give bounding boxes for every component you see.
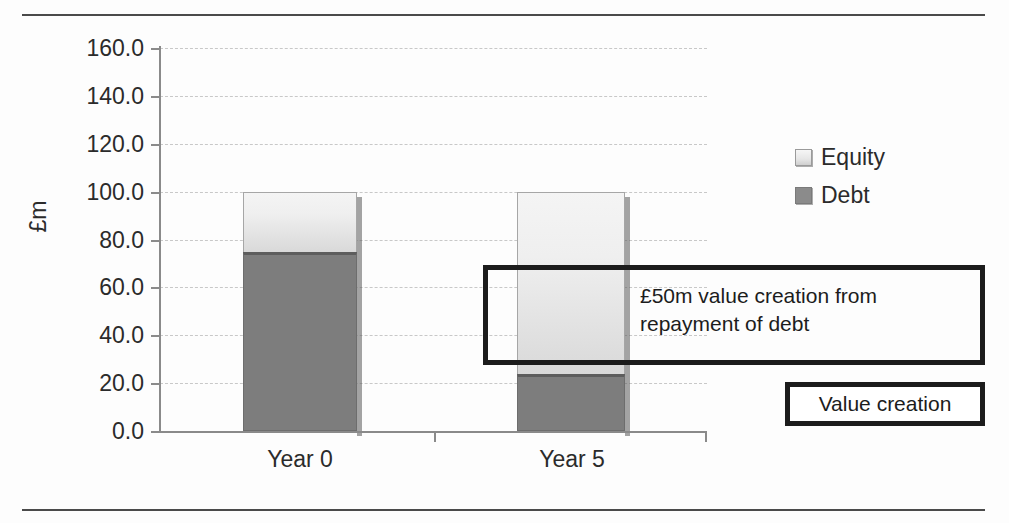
value-creation-callout-box: £50m value creation from repayment of de… (483, 265, 985, 365)
legend-item-equity[interactable]: Equity (795, 138, 885, 176)
ytick-label-20: 20.0 (99, 370, 144, 397)
legend-label-debt: Debt (821, 184, 870, 207)
debt-swatch-icon (795, 187, 812, 204)
ytick-label-0: 0.0 (112, 418, 144, 445)
ytick-label-100: 100.0 (86, 178, 144, 205)
xtick-label-year-5: Year 5 (512, 446, 632, 473)
equity-swatch-icon (795, 149, 812, 166)
value-creation-key-box: Value creation (785, 382, 985, 426)
legend-item-debt[interactable]: Debt (795, 176, 885, 214)
value-creation-key-label: Value creation (819, 392, 952, 416)
xtick-label-year-0: Year 0 (240, 446, 360, 473)
ytick-label-160: 160.0 (86, 35, 144, 62)
xtick-end (705, 431, 707, 442)
y-axis-title: £m (25, 197, 52, 237)
legend-label-equity: Equity (821, 146, 885, 169)
bar-year-5-segment-debt[interactable] (517, 374, 625, 431)
value-creation-callout-text: £50m value creation from repayment of de… (640, 282, 970, 337)
bar-year-0-segment-equity[interactable] (243, 192, 357, 252)
bar-year-0[interactable] (243, 192, 357, 431)
xtick-mid (434, 431, 436, 442)
bar-year-0-shadow (357, 197, 362, 436)
bar-year-0-segment-debt[interactable] (243, 252, 357, 432)
gridline-120 (160, 144, 707, 145)
ytick-label-120: 120.0 (86, 130, 144, 157)
chart-figure: £m 160.0 140.0 120.0 100.0 80.0 60.0 40.… (0, 0, 1009, 523)
callout-line-2: repayment of debt (640, 310, 970, 338)
gridline-140 (160, 96, 707, 97)
plot-area: 160.0 140.0 120.0 100.0 80.0 60.0 40.0 2… (160, 48, 707, 431)
ytick-label-140: 140.0 (86, 82, 144, 109)
y-axis-line (159, 46, 161, 433)
ytick-label-40: 40.0 (99, 322, 144, 349)
bottom-divider-rule (22, 509, 985, 511)
chart-legend: Equity Debt (795, 138, 885, 214)
ytick-label-60: 60.0 (99, 274, 144, 301)
top-divider-rule (22, 14, 985, 16)
ytick-label-80: 80.0 (99, 226, 144, 253)
gridline-160 (160, 48, 707, 49)
callout-line-1: £50m value creation from (640, 282, 970, 310)
